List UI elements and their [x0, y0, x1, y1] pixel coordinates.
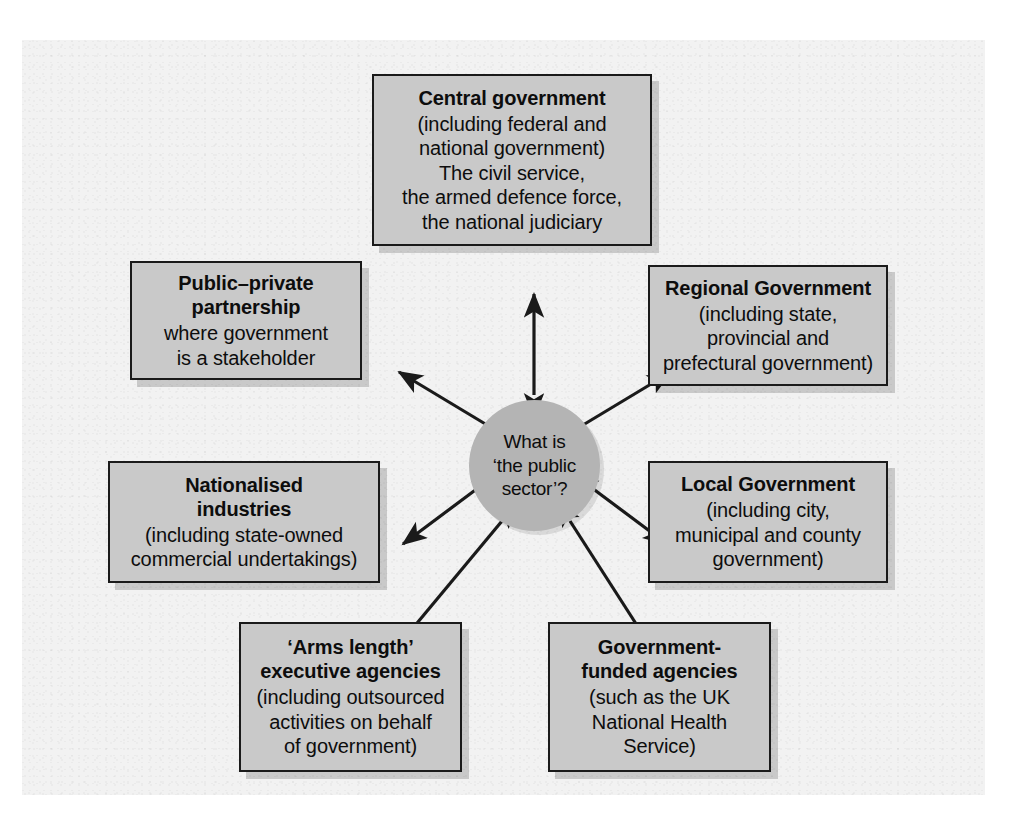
node-regional-government[interactable]: Regional Government (including state, pr… [648, 265, 888, 386]
node-government-funded-agencies-body: (such as the UK National Health Service) [589, 685, 730, 758]
node-central-government[interactable]: Central government (including federal an… [372, 74, 652, 246]
connector-hub-to-public-private-partnership [399, 372, 492, 428]
connector-hub-to-nationalised-industries [403, 488, 478, 544]
figure-panel: What is ‘the public sector’? Central gov… [22, 40, 985, 795]
node-local-government-title: Local Government [681, 472, 855, 496]
node-local-government-body: (including city, municipal and county go… [675, 498, 861, 571]
node-arms-length-executive-agencies-body: (including outsourced activities on beha… [256, 685, 444, 758]
node-regional-government-title: Regional Government [665, 276, 871, 300]
hub-label: What is ‘the public sector’? [493, 430, 576, 501]
node-public-private-partnership-title: Public–private partnership [178, 271, 313, 319]
hub-circle: What is ‘the public sector’? [469, 400, 600, 531]
node-central-government-body: (including federal and national governme… [402, 112, 622, 234]
node-public-private-partnership[interactable]: Public–private partnership where governm… [130, 261, 362, 380]
node-central-government-title: Central government [418, 86, 605, 110]
node-arms-length-executive-agencies[interactable]: ‘Arms length’ executive agencies (includ… [239, 622, 462, 772]
node-public-private-partnership-body: where government is a stakeholder [164, 321, 328, 370]
node-arms-length-executive-agencies-title: ‘Arms length’ executive agencies [260, 635, 441, 683]
node-government-funded-agencies-title: Government- funded agencies [581, 635, 737, 683]
node-nationalised-industries-body: (including state-owned commercial undert… [131, 523, 358, 572]
node-nationalised-industries-title: Nationalised industries [185, 473, 303, 521]
node-regional-government-body: (including state, provincial and prefect… [663, 302, 873, 375]
node-government-funded-agencies[interactable]: Government- funded agencies (such as the… [548, 622, 771, 772]
node-local-government[interactable]: Local Government (including city, munici… [648, 461, 888, 583]
node-nationalised-industries[interactable]: Nationalised industries (including state… [108, 461, 380, 583]
